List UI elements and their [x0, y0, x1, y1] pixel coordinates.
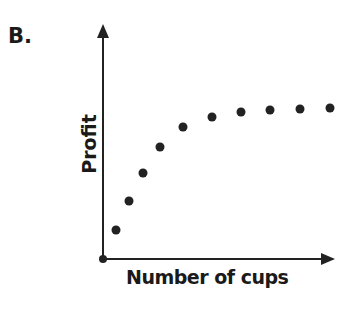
origin-dot: [99, 255, 107, 263]
data-point: [125, 197, 134, 206]
data-point: [208, 113, 217, 122]
data-point: [266, 106, 275, 115]
data-point: [296, 105, 305, 114]
data-point: [179, 123, 188, 132]
data-point: [237, 108, 246, 117]
data-point: [112, 226, 121, 235]
data-point: [326, 104, 335, 113]
x-axis-label: Number of cups: [126, 266, 288, 288]
data-point: [139, 169, 148, 178]
data-points: [112, 104, 335, 235]
y-axis-label: Profit: [78, 114, 100, 174]
data-point: [156, 143, 165, 152]
